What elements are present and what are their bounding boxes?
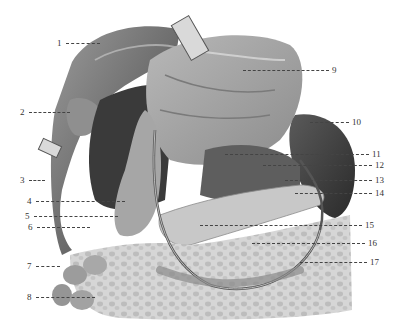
- label-number-16: 16: [368, 239, 377, 248]
- label-number-7: 7: [27, 262, 32, 271]
- leader-line-3: [29, 180, 45, 181]
- label-number-13: 13: [375, 176, 384, 185]
- label-number-14: 14: [375, 189, 384, 198]
- leader-line-16: [252, 243, 365, 244]
- label-number-9: 9: [332, 66, 337, 75]
- leader-line-15: [200, 225, 362, 226]
- label-number-6: 6: [28, 223, 33, 232]
- leader-line-1: [66, 43, 100, 44]
- label-number-17: 17: [370, 258, 379, 267]
- leader-line-7: [36, 266, 60, 267]
- label-number-10: 10: [352, 118, 361, 127]
- leader-line-4: [36, 201, 125, 202]
- leader-line-13: [285, 180, 372, 181]
- label-number-1: 1: [57, 39, 62, 48]
- label-number-3: 3: [20, 176, 25, 185]
- leader-line-17: [300, 262, 367, 263]
- leader-line-8: [36, 297, 95, 298]
- label-number-2: 2: [20, 108, 25, 117]
- leader-line-14: [295, 193, 372, 194]
- label-number-11: 11: [372, 150, 381, 159]
- label-number-8: 8: [27, 293, 32, 302]
- leader-line-11: [225, 154, 369, 155]
- leader-line-2: [29, 112, 70, 113]
- leader-line-10: [310, 122, 349, 123]
- label-number-12: 12: [375, 161, 384, 170]
- label-number-15: 15: [365, 221, 374, 230]
- leader-line-5: [34, 216, 118, 217]
- leader-line-12: [263, 165, 372, 166]
- leader-line-6: [37, 227, 90, 228]
- label-number-5: 5: [25, 212, 30, 221]
- stomach: [146, 35, 302, 165]
- label-number-4: 4: [27, 197, 32, 206]
- anatomy-illustration: [0, 0, 408, 332]
- leader-line-9: [243, 70, 329, 71]
